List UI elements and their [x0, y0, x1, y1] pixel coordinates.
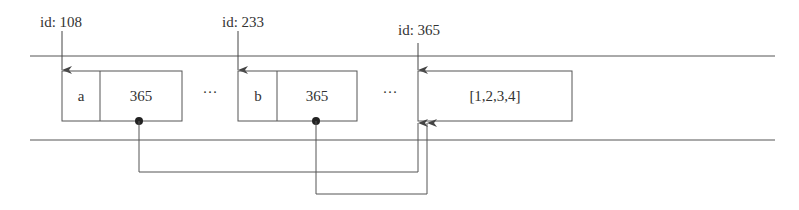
id-label-a: id: 108 [40, 14, 82, 30]
memory-diagram: id: 108 id: 233 id: 365 a 365 ··· b 365 … [0, 0, 799, 210]
id-label-object: id: 365 [398, 22, 440, 38]
variable-a-box: a 365 [62, 71, 182, 121]
list-object-box: [1,2,3,4] [418, 71, 572, 121]
variable-a-name: a [78, 88, 85, 104]
list-object-value: [1,2,3,4] [469, 88, 520, 104]
variable-a-value: 365 [130, 88, 153, 104]
variable-b-name: b [254, 88, 262, 104]
ellipsis-1: ··· [203, 84, 218, 100]
variable-b-box: b 365 [238, 71, 357, 121]
reference-line-b [316, 121, 427, 194]
id-label-b: id: 233 [222, 14, 264, 30]
variable-b-value: 365 [306, 88, 329, 104]
reference-line-a [139, 121, 418, 172]
ellipsis-2: ··· [383, 84, 398, 100]
